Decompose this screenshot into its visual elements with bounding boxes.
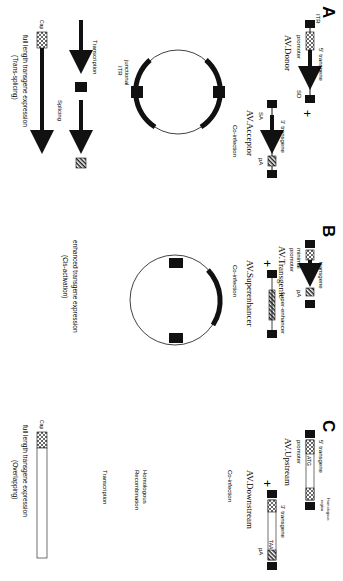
junctional-itr-label: ITR — [117, 66, 123, 76]
promoter-label: promoter — [296, 35, 302, 59]
homologous-region-label: Homologous — [326, 498, 331, 520]
superenhancer-name: AV.Superenhancer — [245, 260, 255, 326]
result-b-line-1: enhanced transgene expression — [71, 240, 79, 333]
region-label: region — [320, 500, 325, 511]
panel-c-letter: C — [319, 420, 338, 432]
itr-block-icon — [305, 95, 315, 103]
promoter-label-b: promoter — [289, 248, 295, 272]
pa-icon — [268, 156, 276, 166]
sa-label: SA — [258, 112, 264, 120]
junctional-label: junctional — [124, 59, 130, 85]
itr-block-icon — [305, 20, 315, 28]
promoter-label-c: promoter — [296, 440, 302, 464]
three-prime-label-c: 3' transgene — [280, 505, 286, 538]
plus-sign-c: + — [260, 480, 274, 487]
upstream-name: AV.Upstream — [283, 438, 293, 486]
step-co-infection: Co-infection — [232, 125, 238, 157]
downstream-name: AV.Downstream — [245, 470, 255, 529]
sd-label: SD — [296, 90, 302, 99]
cap-label-c: Cap — [39, 420, 45, 429]
result-c-line-1: full length transgene expression — [21, 425, 29, 517]
panel-c: C ATG Homologous region 5' transgene pro… — [11, 420, 338, 570]
minimal-label: minimal — [296, 248, 302, 269]
donor-name: AV.Donor — [283, 35, 293, 71]
result-a-line-2: (Trans-splicing) — [11, 55, 19, 100]
three-prime-label: 3' transgene — [280, 120, 286, 153]
av-acceptor-construct: 3' transgene SA pA AV.Acceptor — [245, 100, 286, 178]
panel-b-letter: B — [319, 225, 338, 237]
result-b-line-2: (Cis-activation) — [61, 255, 69, 298]
step-homologous: Homologous — [142, 470, 148, 504]
step-transcription: Transcription — [92, 40, 98, 74]
step-recombination: Recombination — [134, 470, 140, 510]
promoter-icon — [306, 32, 314, 50]
acceptor-name: AV.Acceptor — [245, 110, 255, 156]
plus-sign-b: + — [260, 260, 274, 267]
itr-label: ITR — [315, 14, 321, 24]
panel-a-letter: A — [319, 6, 338, 18]
step-co-infection-c: Co-infection — [227, 470, 233, 502]
result-c-line-2: (Overlapping) — [11, 460, 19, 499]
step-co-infection-b: Co-infection — [232, 265, 238, 297]
five-prime-label-c: 5' transgene — [318, 440, 324, 473]
transgenic-name: AV.Transgenic — [277, 246, 287, 299]
panel-b: B transgene minimal promoter pA AV.Trans… — [61, 225, 338, 345]
step-splicing: Splicing — [57, 100, 63, 121]
pa-label: pA — [258, 158, 264, 165]
plus-sign: + — [300, 110, 314, 117]
transgene-label: transgene — [318, 262, 324, 289]
taa-label: TAA — [268, 540, 274, 550]
super-enhancer-label: super-enhancer — [280, 292, 286, 334]
panel-a: A ITR 5' transgene promoter SD AV.Donor … — [11, 6, 338, 178]
av-donor-construct: ITR 5' transgene promoter SD AV.Donor — [283, 14, 324, 103]
pa-label-c: pA — [258, 548, 264, 555]
figure-canvas: A ITR 5' transgene promoter SD AV.Donor … — [0, 0, 343, 581]
five-prime-label: 5' transgene — [318, 48, 324, 81]
result-a-line-1: full length transgene expression — [21, 35, 29, 127]
cap-label: Cap — [39, 20, 45, 29]
atg-label: ATG — [306, 456, 312, 466]
step-transcription-c: Transcription — [102, 470, 108, 504]
pa-label-b: pA — [296, 290, 302, 297]
